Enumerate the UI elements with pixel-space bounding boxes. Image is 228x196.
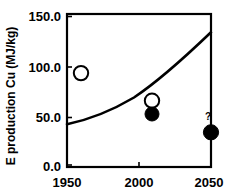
x-axis-label-2050: 2050 xyxy=(195,175,224,190)
plot-frame xyxy=(67,14,211,167)
data-point-open-2009 xyxy=(145,94,159,108)
x-axis-label-1950: 1950 xyxy=(53,175,82,190)
chart-canvas: ? 150.0 100.0 50.0 0.0 1950 2000 2050 E … xyxy=(0,0,228,196)
data-point-filled-2009 xyxy=(145,107,159,121)
y-axis-label-100: 100.0 xyxy=(28,60,61,75)
x-axis-label-2000: 2000 xyxy=(125,175,154,190)
trend-curve xyxy=(67,32,211,124)
data-point-open-1960 xyxy=(74,66,88,80)
data-point-filled-2050 xyxy=(203,125,218,140)
y-axis-title: E production Cu (MJ/kg) xyxy=(4,27,18,166)
y-axis-label-150: 150.0 xyxy=(28,9,61,24)
chart-figure: ? 150.0 100.0 50.0 0.0 1950 2000 2050 E … xyxy=(0,0,228,196)
question-mark-annotation: ? xyxy=(205,111,211,122)
y-axis-label-0: 0.0 xyxy=(43,159,61,174)
y-axis-label-50: 50.0 xyxy=(36,110,61,125)
